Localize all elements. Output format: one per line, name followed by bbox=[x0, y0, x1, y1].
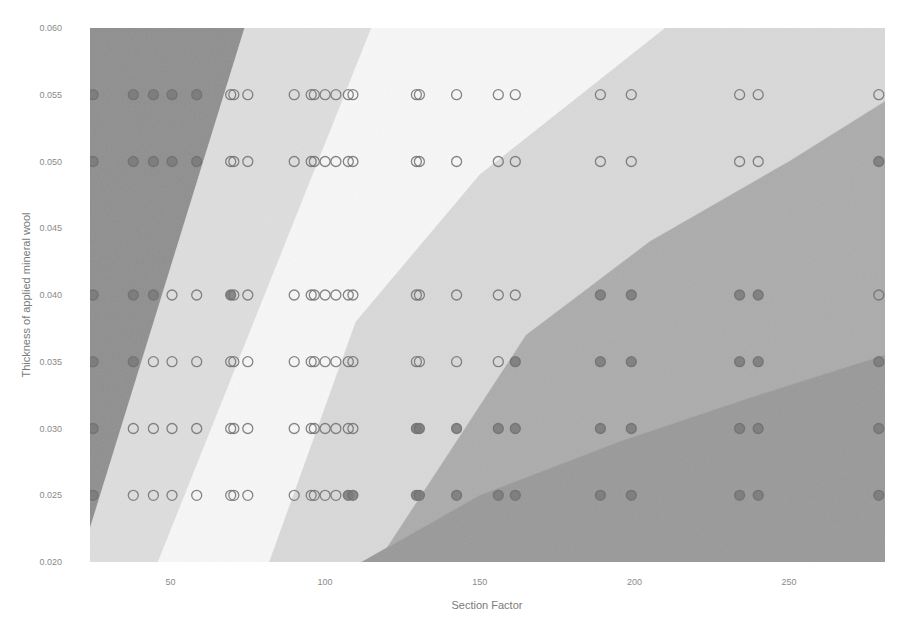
y-tick-label: 0.030 bbox=[39, 424, 62, 434]
data-point-filled bbox=[348, 490, 358, 500]
data-point-filled bbox=[753, 290, 763, 300]
data-point-filled bbox=[753, 490, 763, 500]
y-tick-label: 0.050 bbox=[39, 157, 62, 167]
data-point-filled bbox=[192, 90, 202, 100]
data-point-filled bbox=[735, 490, 745, 500]
data-point-filled bbox=[452, 424, 462, 434]
y-tick-label: 0.020 bbox=[39, 557, 62, 567]
data-point-filled bbox=[510, 424, 520, 434]
data-point-filled bbox=[753, 424, 763, 434]
data-point-filled bbox=[88, 90, 98, 100]
data-point-filled bbox=[192, 157, 202, 167]
x-axis-ticks: 50100150200250 bbox=[165, 577, 796, 587]
data-point-filled bbox=[874, 157, 884, 167]
data-point-filled bbox=[735, 424, 745, 434]
x-axis-label: Section Factor bbox=[452, 599, 523, 611]
y-tick-label: 0.040 bbox=[39, 290, 62, 300]
data-point-filled bbox=[874, 490, 884, 500]
data-point-filled bbox=[510, 357, 520, 367]
data-point-filled bbox=[414, 424, 424, 434]
data-point-filled bbox=[595, 357, 605, 367]
data-point-filled bbox=[626, 424, 636, 434]
data-point-filled bbox=[128, 90, 138, 100]
y-tick-label: 0.060 bbox=[39, 23, 62, 33]
data-point-filled bbox=[626, 490, 636, 500]
decision-regions bbox=[90, 28, 885, 562]
data-point-filled bbox=[735, 357, 745, 367]
data-point-filled bbox=[88, 357, 98, 367]
data-point-filled bbox=[626, 290, 636, 300]
data-point-filled bbox=[148, 157, 158, 167]
y-axis-label: Thickness of applied mineral wool bbox=[20, 212, 32, 377]
y-axis-ticks: 0.0200.0250.0300.0350.0400.0450.0500.055… bbox=[39, 23, 62, 567]
data-point-filled bbox=[753, 357, 763, 367]
data-point-filled bbox=[148, 90, 158, 100]
data-point-filled bbox=[148, 290, 158, 300]
data-point-filled bbox=[452, 490, 462, 500]
data-point-filled bbox=[167, 90, 177, 100]
y-tick-label: 0.035 bbox=[39, 357, 62, 367]
data-point-filled bbox=[595, 490, 605, 500]
data-point-filled bbox=[414, 490, 424, 500]
data-point-filled bbox=[874, 424, 884, 434]
y-tick-label: 0.055 bbox=[39, 90, 62, 100]
y-tick-label: 0.025 bbox=[39, 490, 62, 500]
data-point-filled bbox=[88, 290, 98, 300]
data-point-filled bbox=[626, 357, 636, 367]
x-tick-label: 50 bbox=[165, 577, 175, 587]
decision-region-chart: 0.0200.0250.0300.0350.0400.0450.0500.055… bbox=[0, 0, 909, 624]
data-point-filled bbox=[493, 424, 503, 434]
data-point-filled bbox=[493, 490, 503, 500]
data-point-filled bbox=[88, 424, 98, 434]
data-point-filled bbox=[510, 490, 520, 500]
data-point-filled bbox=[167, 157, 177, 167]
data-point-filled bbox=[88, 490, 98, 500]
x-tick-label: 200 bbox=[627, 577, 642, 587]
data-point-filled bbox=[595, 290, 605, 300]
data-point-filled bbox=[128, 157, 138, 167]
x-tick-label: 150 bbox=[472, 577, 487, 587]
x-tick-label: 250 bbox=[782, 577, 797, 587]
data-point-filled bbox=[128, 290, 138, 300]
data-point-filled bbox=[128, 357, 138, 367]
data-point-filled bbox=[735, 290, 745, 300]
data-point-filled bbox=[595, 424, 605, 434]
x-tick-label: 100 bbox=[318, 577, 333, 587]
data-point-filled bbox=[874, 357, 884, 367]
data-point-filled bbox=[88, 157, 98, 167]
y-tick-label: 0.045 bbox=[39, 223, 62, 233]
